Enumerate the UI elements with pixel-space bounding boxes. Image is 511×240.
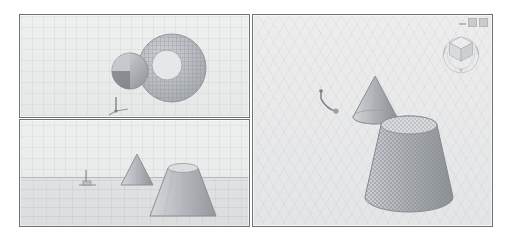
viewport-top-view[interactable] (19, 14, 250, 118)
axis-tripod-icon (106, 95, 130, 117)
maximize-icon[interactable] (468, 18, 477, 27)
axis-tripod-icon (315, 87, 345, 121)
small-cone-top-silhouette[interactable] (104, 45, 158, 99)
viewport-front-view[interactable] (19, 119, 250, 227)
large-cone-perspective[interactable] (345, 115, 475, 225)
viewport-perspective-view[interactable] (252, 14, 493, 227)
minimize-icon[interactable] (459, 23, 466, 25)
application-window (19, 14, 493, 227)
large-cone-front-silhouette[interactable] (144, 162, 226, 224)
axis-tripod-icon (77, 168, 99, 190)
close-icon[interactable] (479, 18, 488, 27)
window-controls[interactable] (459, 18, 488, 27)
view-cube-icon[interactable] (438, 29, 484, 75)
